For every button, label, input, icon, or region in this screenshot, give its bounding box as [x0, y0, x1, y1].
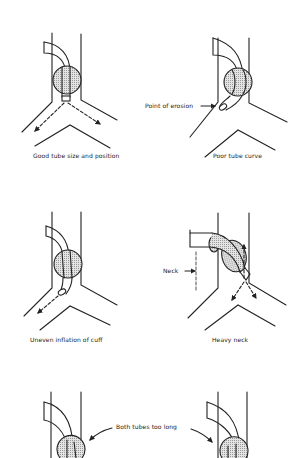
panel-heavy-neck — [185, 213, 286, 330]
callout-point-of-erosion: Point of erosion — [145, 102, 193, 109]
panel-too-long-left — [44, 392, 85, 458]
caption-uneven-inflation: Uneven inflation of cuff — [30, 336, 103, 343]
tracheal-tube-diagram — [0, 0, 297, 458]
callout-both-tubes-too-long: Both tubes too long — [116, 423, 177, 430]
caption-heavy-neck: Heavy neck — [212, 336, 248, 343]
panel-too-long-right — [207, 392, 248, 458]
panel-uneven-inflation — [24, 212, 117, 330]
caption-poor-tube-curve: Poor tube curve — [213, 152, 262, 159]
caption-good-tube: Good tube size and position — [33, 152, 119, 159]
too-long-arrow-left — [90, 428, 112, 440]
too-long-arrow-right — [191, 429, 212, 442]
panel-good-tube — [22, 33, 117, 148]
callout-neck: Neck — [163, 267, 178, 274]
panel-poor-tube-curve — [190, 38, 287, 157]
